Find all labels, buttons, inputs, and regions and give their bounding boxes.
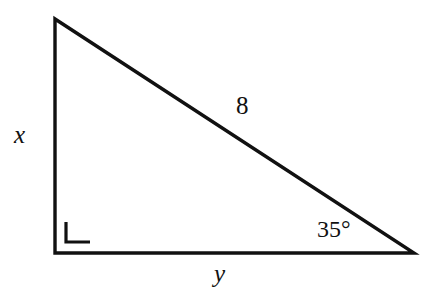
side-label-vertical-leg: x bbox=[14, 122, 25, 147]
right-angle-marker-icon bbox=[66, 222, 90, 242]
side-label-horizontal-leg: y bbox=[214, 261, 225, 286]
angle-label-35-degrees: 35° bbox=[317, 217, 351, 241]
side-label-hypotenuse: 8 bbox=[236, 93, 249, 118]
triangle-drawing bbox=[0, 0, 434, 299]
triangle-outline bbox=[55, 19, 414, 253]
geometry-figure: x y 8 35° bbox=[0, 0, 434, 299]
